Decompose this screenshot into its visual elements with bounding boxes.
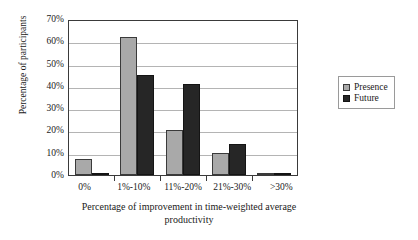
bar-future-30 — [274, 173, 291, 175]
x-tick-mark — [114, 176, 115, 181]
bar-future-110 — [137, 75, 154, 175]
x-tick-label: 11%-20% — [158, 182, 207, 193]
bar-group — [212, 21, 246, 175]
legend-label: Future — [354, 93, 379, 103]
plot-area — [68, 20, 298, 176]
y-tick-label: 0% — [34, 171, 64, 181]
bar-future-1120 — [183, 84, 200, 175]
bar-group — [120, 21, 154, 175]
bar-future-0 — [92, 173, 109, 175]
x-axis-title-line-1: Percentage of improvement in time-weight… — [44, 200, 334, 213]
y-tick-label: 70% — [34, 15, 64, 25]
y-tick-label: 20% — [34, 127, 64, 137]
y-tick-label: 10% — [34, 149, 64, 159]
x-axis-title: Percentage of improvement in time-weight… — [44, 200, 334, 226]
chart-legend: PresenceFuture — [338, 76, 395, 109]
x-axis-tick-labels: 0%1%-10%11%-20%21%-30%>30% — [60, 182, 306, 193]
bar-presence-110 — [120, 37, 137, 175]
bar-presence-30 — [257, 173, 274, 175]
bar-presence-0 — [75, 159, 92, 175]
bar-presence-1120 — [166, 130, 183, 175]
legend-swatch-icon — [343, 95, 350, 102]
bar-chart-figure: Percentage of participants 0%10%20%30%40… — [0, 0, 418, 240]
bar-group — [75, 21, 109, 175]
bar-group — [257, 21, 291, 175]
bar-group — [166, 21, 200, 175]
x-tick-label: 21%-30% — [208, 182, 257, 193]
x-tick-label: >30% — [257, 182, 306, 193]
legend-label: Presence — [354, 82, 388, 92]
bar-presence-2130 — [212, 153, 229, 175]
bar-groups — [69, 21, 297, 175]
x-tick-mark — [252, 176, 253, 181]
y-axis-title: Percentage of participants — [18, 0, 28, 140]
x-axis-title-line-2: productivity — [44, 213, 334, 226]
y-axis-tick-labels: 0%10%20%30%40%50%60%70% — [34, 20, 64, 176]
x-tick-label: 0% — [60, 182, 109, 193]
x-axis-tick-marks — [68, 176, 298, 181]
x-tick-mark — [160, 176, 161, 181]
legend-entry-future: Future — [343, 93, 388, 103]
y-tick-label: 60% — [34, 38, 64, 48]
x-tick-label: 1%-10% — [109, 182, 158, 193]
y-tick-label: 30% — [34, 104, 64, 114]
legend-entry-presence: Presence — [343, 82, 388, 92]
x-tick-mark — [206, 176, 207, 181]
legend-swatch-icon — [343, 84, 350, 91]
y-tick-label: 40% — [34, 82, 64, 92]
y-tick-label: 50% — [34, 60, 64, 70]
bar-future-2130 — [229, 144, 246, 175]
